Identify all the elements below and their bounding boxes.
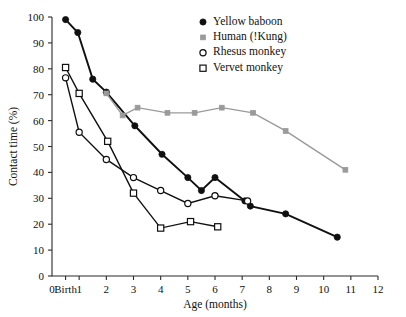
data-point [76,90,82,96]
x-tick-label: Birth [54,283,77,295]
y-tick-label: 20 [33,218,45,230]
y-tick-label: 90 [33,37,45,49]
legend-item-rhesus-monkey: Rhesus monkey [200,45,286,58]
x-tick-label: 1 [76,283,82,295]
data-point [343,167,348,172]
y-tick-label: 70 [33,89,45,101]
data-point [159,151,165,157]
data-point [62,75,68,81]
data-point [215,224,221,230]
x-axis-ticks: 0Birth123456789101112 [49,276,383,295]
data-point [76,129,82,135]
data-point [75,29,81,35]
data-point [192,110,197,115]
y-tick-label: 100 [28,11,45,23]
data-point [103,156,109,162]
y-tick-label: 0 [39,270,45,282]
data-point [185,200,191,206]
data-point [62,16,68,22]
legend-marker-open-circle-icon [200,50,206,56]
x-tick-label: 10 [318,283,330,295]
series-vervet-monkey [62,64,220,231]
data-point [185,174,191,180]
legend-marker-filled-circle-icon [200,19,206,25]
y-axis-title: Contact time (%) [7,107,20,186]
x-tick-label: 3 [131,283,137,295]
series-line [66,68,218,229]
y-tick-label: 40 [33,166,45,178]
y-tick-label: 60 [33,115,45,127]
x-tick-label: 4 [158,283,164,295]
data-point [219,105,224,110]
legend-label: Rhesus monkey [213,45,286,58]
legend-label: Human (!Kung) [213,30,287,43]
data-point [187,219,193,225]
legend-marker-open-square-icon [200,65,206,71]
data-point [212,174,218,180]
data-point [198,187,204,193]
series-line [66,78,248,204]
data-point [105,138,111,144]
y-tick-label: 80 [33,63,45,75]
data-point [212,193,218,199]
data-point [120,113,125,118]
data-point [132,123,138,129]
y-tick-label: 50 [33,141,45,153]
data-point [245,198,251,204]
x-tick-label: 9 [294,283,300,295]
x-axis-title: Age (months) [183,298,247,311]
x-tick-label: 2 [104,283,110,295]
legend-item-vervet-monkey: Vervet monkey [200,61,283,74]
legend: Yellow baboonHuman (!Kung)Rhesus monkeyV… [200,15,287,74]
x-tick-label: 6 [212,283,218,295]
x-tick-label: 7 [239,283,245,295]
data-point [104,91,109,96]
legend-marker-filled-square-icon [201,35,206,40]
data-point [90,76,96,82]
data-point [130,174,136,180]
data-point [135,105,140,110]
data-point [62,64,68,70]
data-point [334,234,340,240]
y-axis-ticks: 0102030405060708090100 [28,11,53,282]
legend-label: Yellow baboon [213,15,283,27]
legend-item-yellow-baboon: Yellow baboon [200,15,283,27]
series-rhesus-monkey [62,75,250,207]
data-point [283,129,288,134]
chart-container: 01020304050607080901000Birth123456789101… [0,0,406,317]
contact-time-line-chart: 01020304050607080901000Birth123456789101… [0,0,406,317]
series-line [106,93,345,169]
data-point [158,187,164,193]
x-tick-label: 5 [185,283,191,295]
data-point [158,225,164,231]
x-tick-label: 12 [373,283,384,295]
x-tick-label: 8 [267,283,273,295]
y-tick-label: 10 [33,244,45,256]
data-point [283,211,289,217]
legend-label: Vervet monkey [213,61,283,74]
data-point [251,110,256,115]
data-point [130,190,136,196]
legend-item-human-kung: Human (!Kung) [201,30,287,43]
data-point [165,110,170,115]
x-tick-label: 11 [346,283,357,295]
y-tick-label: 30 [33,192,45,204]
